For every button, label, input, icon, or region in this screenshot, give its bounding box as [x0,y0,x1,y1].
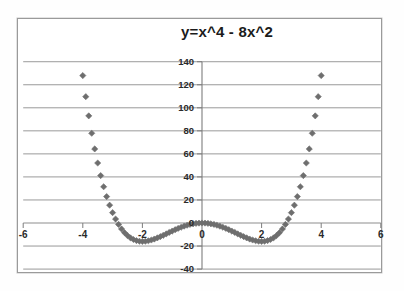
data-point [80,72,86,78]
data-point [98,172,104,178]
data-point [107,202,113,208]
data-point [312,113,318,119]
ytick-label--40: -40 [162,263,194,274]
ytick-label-120: 120 [162,79,194,90]
ytick-label-60: 60 [162,148,194,159]
xtick-label--2: -2 [126,229,158,240]
data-point [110,210,116,216]
data-point [300,172,306,178]
ytick-label-40: 40 [162,171,194,182]
data-point [83,94,89,100]
data-point [297,184,303,190]
data-point [86,113,92,119]
xtick-label-6: 6 [365,229,397,240]
data-point [92,146,98,152]
xtick-label--4: -4 [67,229,99,240]
data-point [112,216,118,222]
xtick-label-2: 2 [246,229,278,240]
ytick-label-0: 0 [162,217,194,228]
data-point [315,94,321,100]
data-point [294,193,300,199]
ytick-label-80: 80 [162,125,194,136]
ytick-label-140: 140 [162,56,194,67]
data-point [306,146,312,152]
ytick-label-100: 100 [162,102,194,113]
data-point [101,184,107,190]
ytick-label--20: -20 [162,240,194,251]
data-point [291,202,297,208]
xtick-label--6: -6 [7,229,39,240]
ytick-label-20: 20 [162,194,194,205]
xtick-label-0: 0 [186,229,218,240]
data-point [285,216,291,222]
data-point [288,210,294,216]
data-point [318,72,324,78]
chart-frame: y=x^4 - 8x^2 -40-20020406080100120140-6-… [17,18,382,273]
data-point [95,160,101,166]
data-point [104,193,110,199]
chart-page: y=x^4 - 8x^2 -40-20020406080100120140-6-… [0,0,404,291]
xtick-label-4: 4 [305,229,337,240]
data-point [303,160,309,166]
